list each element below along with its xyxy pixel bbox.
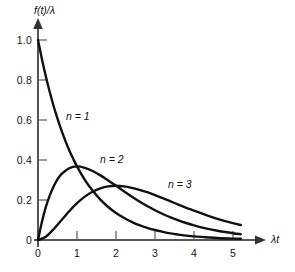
x-tick-label-0: 0	[28, 247, 48, 259]
x-tick-label-5: 5	[223, 247, 243, 259]
y-tick-label-0.8: 0.8	[2, 74, 32, 86]
x-tick-label-1: 1	[67, 247, 87, 259]
curve-n1	[38, 40, 241, 239]
curve-label-n2: n = 2	[100, 153, 124, 165]
y-tick-label-1.0: 1.0	[2, 34, 32, 46]
y-tick-label-0.6: 0.6	[2, 114, 32, 126]
curve-n3	[38, 186, 241, 240]
y-tick-label-0.4: 0.4	[2, 154, 32, 166]
y-tick-label-0.2: 0.2	[2, 194, 32, 206]
x-axis-title: λt	[271, 233, 279, 245]
chart-figure: 1.0 0.8 0.6 0.4 0.2 0 0 1 2 3 4 5 f(t)/λ…	[0, 0, 295, 272]
x-tick-label-2: 2	[106, 247, 126, 259]
data-curves	[38, 40, 241, 240]
plot-canvas	[0, 0, 295, 272]
curve-label-n3: n = 3	[168, 178, 192, 190]
x-axis	[34, 235, 266, 244]
x-tick-label-3: 3	[145, 247, 165, 259]
curve-n2	[38, 166, 241, 240]
curve-label-n1: n = 1	[66, 110, 90, 122]
y-axis-title: f(t)/λ	[34, 4, 55, 16]
y-tick-label-0: 0	[2, 234, 32, 246]
x-tick-label-4: 4	[184, 247, 204, 259]
